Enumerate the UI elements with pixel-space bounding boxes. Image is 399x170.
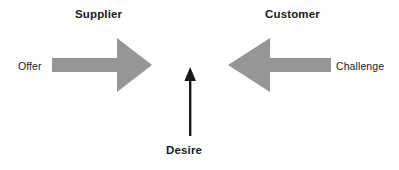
customer-label: Customer [265, 9, 320, 21]
desire-label: Desire [166, 145, 202, 157]
supplier-label: Supplier [75, 9, 122, 21]
offer-label: Offer [18, 61, 42, 72]
challenge-label: Challenge [336, 61, 384, 72]
diagram-canvas: Supplier Customer Offer Challenge Desire [0, 0, 399, 170]
